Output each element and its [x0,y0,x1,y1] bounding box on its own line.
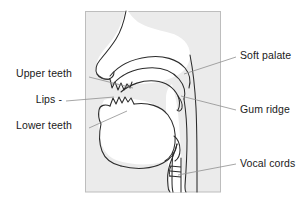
label-soft-palate: Soft palate [240,49,291,61]
label-lips: Lips - [0,93,62,105]
label-vocal-cords: Vocal cords [240,157,295,169]
label-gum-ridge: Gum ridge [240,103,290,115]
label-upper-teeth: Upper teeth [16,67,72,79]
label-lower-teeth: Lower teeth [16,119,72,131]
